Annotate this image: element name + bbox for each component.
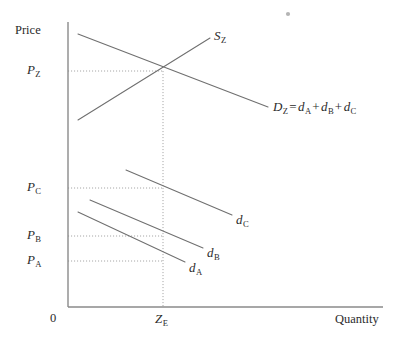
curve-label-supply-sz: SZ [214,29,226,42]
price-label-pb: PB [27,228,41,241]
equation-equals: = [288,99,298,114]
price-label-pa: PA [27,253,41,266]
origin-label: 0 [50,312,56,325]
supply-demand-figure: Price Quantity 0 ZE PZ PC PB PA SZ DZ=dA… [0,0,400,344]
equation-lhs-subscript: Z [283,106,288,116]
curve-label-demand-da: dA [189,261,202,274]
price-label-pc-base: P [27,179,35,194]
price-label-pz-base: P [27,62,35,77]
x-tick-label-equilibrium: ZE [155,312,167,325]
price-label-pc-subscript: C [35,186,41,196]
curve-label-dc-subscript: C [243,219,249,229]
plot-canvas [0,0,400,344]
price-label-pc: PC [27,180,41,193]
x-tick-base: Z [155,311,162,326]
curve-label-db-subscript: B [214,252,220,262]
equation-term-a-base: d [298,99,305,114]
price-label-pb-base: P [27,227,35,242]
x-axis-label: Quantity [335,313,379,326]
curve-label-demand-dc: dC [236,213,248,226]
equation-term-c-subscript: C [351,106,357,116]
price-label-pb-subscript: B [35,234,41,244]
demand-curve-da [78,212,185,262]
price-label-pz: PZ [27,63,40,76]
supply-curve-sz [78,38,210,120]
y-axis-label: Price [15,24,41,37]
equation-term-c-base: d [344,99,351,114]
curve-label-da-subscript: A [196,267,202,277]
curve-label-dc-base: d [236,212,243,227]
demand-curve-dc [126,170,232,215]
price-label-pa-base: P [27,252,35,267]
curve-label-sz-subscript: Z [221,35,226,45]
equation-plus-second: + [333,99,343,114]
speck-artifact [286,12,290,16]
equation-term-a-subscript: A [305,106,311,116]
equation-plus-first: + [311,99,321,114]
curve-label-market-demand-equation: DZ=dA+dB+dC [273,100,356,113]
equation-term-b-base: d [321,99,328,114]
curve-label-sz-base: S [214,28,221,43]
equation-term-b-subscript: B [328,106,334,116]
demand-curve-db [90,200,203,248]
curve-label-demand-db: dB [207,246,219,259]
price-label-pz-subscript: Z [35,69,40,79]
market-demand-curve-dz [78,34,268,107]
x-tick-subscript: E [163,318,168,328]
curve-label-db-base: d [207,245,214,260]
price-label-pa-subscript: A [35,259,41,269]
curve-label-da-base: d [189,260,196,275]
equation-lhs-base: D [273,99,282,114]
